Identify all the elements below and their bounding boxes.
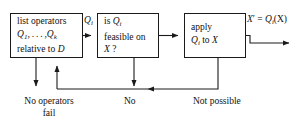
node-apply-line2: Qi to X — [191, 34, 245, 50]
node-list-line1: list operators — [17, 15, 82, 28]
node-feasible-line2: feasible on — [104, 31, 158, 44]
node-list-line3: relative to D — [17, 43, 82, 56]
edge-label-output: X′ = Qi(X) — [247, 13, 287, 28]
node-feasible-line1: is Qi — [104, 15, 158, 31]
terminal-no: No — [124, 95, 136, 107]
edge-apply-to-output — [246, 36, 289, 44]
node-list-line2: Q1, . . . ,Qk — [17, 28, 82, 44]
edge-not-possible — [148, 58, 218, 89]
node-apply-line1: apply — [191, 21, 245, 34]
edge-label-qi: Qi — [84, 14, 93, 29]
flowchart-diagram: list operators Q1, . . . ,Qk relative to… — [0, 0, 302, 121]
node-list-operators: list operators Q1, . . . ,Qk relative to… — [10, 13, 83, 58]
node-apply-operator: apply Qi to X — [184, 13, 246, 58]
terminal-fail-line2: fail — [6, 107, 92, 119]
node-feasibility-check: is Qi feasible on X ? — [97, 13, 159, 58]
terminal-not-possible: Not possible — [193, 95, 241, 107]
terminal-no-operators-fail: No operators fail — [6, 95, 92, 119]
terminal-fail-line1: No operators — [24, 96, 73, 106]
node-feasible-line3: X ? — [104, 43, 158, 56]
